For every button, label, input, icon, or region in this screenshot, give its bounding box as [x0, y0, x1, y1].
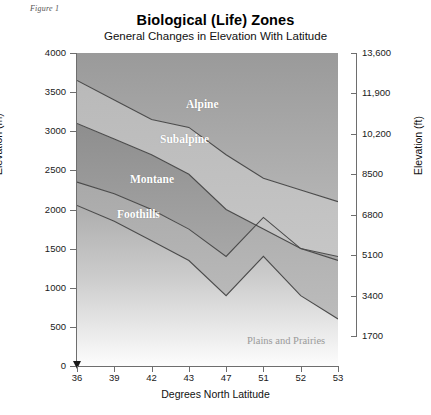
- y-tick-label-left: 2000: [30, 204, 66, 215]
- y-tick-label-right: 3400: [362, 290, 383, 301]
- y-tick-label-left: 1500: [30, 243, 66, 254]
- y-tick-label-left: 2500: [30, 164, 66, 175]
- zone-label-montane: Montane: [130, 173, 174, 185]
- zone-label-subalpine: Subalpine: [160, 133, 209, 145]
- y-tick-left: [70, 249, 76, 250]
- y-tick-right: [351, 215, 357, 216]
- y-tick-label-left: 4000: [30, 47, 66, 58]
- y-tick-right: [351, 53, 357, 54]
- y-tick-label-right: 1700: [362, 330, 383, 341]
- zone-label-foothills: Foothills: [117, 208, 160, 220]
- y-tick-label-left: 1000: [30, 282, 66, 293]
- y-tick-label-right: 5100: [362, 249, 383, 260]
- y-axis-right-title: Elevation (ft): [412, 116, 424, 175]
- y-tick-right: [351, 174, 357, 175]
- y-tick-left: [70, 366, 76, 367]
- y-tick-left: [70, 53, 76, 54]
- y-tick-left: [70, 288, 76, 289]
- y-tick-left: [70, 210, 76, 211]
- y-tick-label-right: 8500: [362, 168, 383, 179]
- y-tick-label-right: 10,200: [362, 128, 391, 139]
- zone-label-alpine: Alpine: [186, 98, 219, 110]
- y-tick-left: [70, 92, 76, 93]
- x-tick-label: 43: [174, 372, 204, 383]
- y-tick-left: [70, 131, 76, 132]
- chart-subtitle: General Changes in Elevation With Latitu…: [0, 30, 431, 42]
- x-tick-label: 51: [248, 372, 278, 383]
- y-tick-label-right: 11,900: [362, 87, 390, 98]
- y-tick-label-right: 13,600: [362, 47, 391, 58]
- x-tick-label: 47: [211, 372, 241, 383]
- y-tick-left: [70, 327, 76, 328]
- y-axis-left-line: [76, 53, 77, 367]
- y-axis-right-line: [356, 53, 357, 336]
- y-tick-right: [351, 336, 357, 337]
- y-tick-label-left: 0: [30, 360, 66, 371]
- y-tick-label-left: 3500: [30, 86, 66, 97]
- y-axis-left-title: Elevation (m): [0, 113, 4, 175]
- y-tick-right: [351, 255, 357, 256]
- x-tick-label: 53: [323, 372, 353, 383]
- y-tick-right: [351, 134, 357, 135]
- y-tick-label-right: 6800: [362, 209, 383, 220]
- y-tick-right: [351, 296, 357, 297]
- x-tick-label: 42: [137, 372, 167, 383]
- x-tick-label: 52: [286, 372, 316, 383]
- x-tick-label: 39: [99, 372, 129, 383]
- y-tick-label-left: 500: [30, 321, 66, 332]
- y-tick-right: [351, 93, 357, 94]
- x-axis-line: [77, 366, 339, 367]
- chart-title: Biological (Life) Zones: [0, 12, 431, 28]
- y-tick-left: [70, 170, 76, 171]
- x-axis-title: Degrees North Latitude: [0, 388, 431, 400]
- x-tick-label: 36: [62, 372, 92, 383]
- zone-label-plains-and-prairies: Plains and Prairies: [247, 335, 325, 346]
- y-tick-label-left: 3000: [30, 125, 66, 136]
